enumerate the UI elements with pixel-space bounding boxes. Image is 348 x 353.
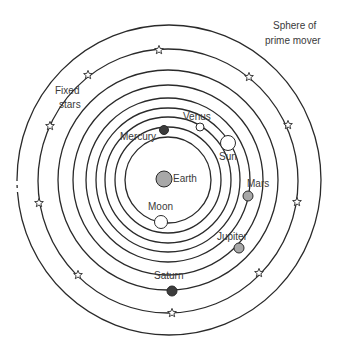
sun-label: Sun bbox=[219, 151, 237, 162]
star-icon bbox=[284, 120, 293, 128]
star-icon bbox=[74, 270, 83, 278]
fixed-stars-label-line2: stars bbox=[59, 99, 81, 110]
star-icon bbox=[293, 197, 302, 205]
mars-label: Mars bbox=[247, 178, 269, 189]
jupiter-body-icon bbox=[234, 243, 244, 253]
moon-label: Moon bbox=[148, 201, 173, 212]
saturn-body-icon bbox=[167, 286, 177, 296]
star-icon bbox=[155, 45, 164, 53]
mercury-label: Mercury bbox=[120, 131, 156, 142]
earth-body-icon bbox=[156, 171, 172, 187]
star-icon bbox=[255, 268, 264, 276]
star-icon bbox=[35, 198, 44, 206]
star-icon bbox=[46, 121, 55, 129]
geocentric-diagram: Earth Moon Mercury Venus Sun Mars Jupite… bbox=[0, 0, 348, 353]
prime-mover-label-line1: Sphere of bbox=[273, 20, 317, 31]
fixed-stars-label-line1: Fixed bbox=[55, 85, 79, 96]
prime-mover-label-line2: prime mover bbox=[265, 35, 321, 46]
mars-body-icon bbox=[243, 191, 253, 201]
labels: Earth Moon Mercury Venus Sun Mars Jupite… bbox=[55, 20, 321, 281]
jupiter-label: Jupiter bbox=[217, 231, 248, 242]
star-icon bbox=[168, 308, 177, 316]
sun-body-icon bbox=[221, 136, 236, 151]
venus-label: Venus bbox=[183, 111, 211, 122]
mercury-body-icon bbox=[160, 126, 169, 135]
saturn-label: Saturn bbox=[154, 270, 183, 281]
star-icon bbox=[84, 70, 93, 78]
earth-label: Earth bbox=[173, 173, 197, 184]
venus-body-icon bbox=[196, 123, 204, 131]
moon-body-icon bbox=[155, 216, 168, 229]
